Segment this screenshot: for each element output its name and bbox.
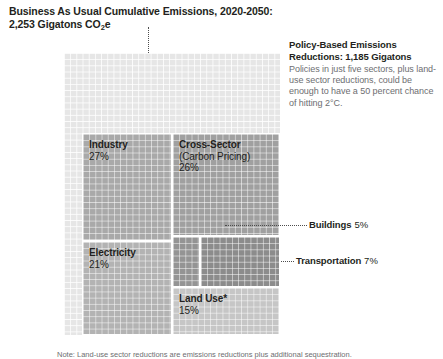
treemap-cell-industry[interactable]: Industry 27% bbox=[82, 133, 172, 241]
footnote: Note: Land-use sector reductions are emi… bbox=[57, 350, 437, 359]
callout-name-transportation: Transportation bbox=[296, 255, 361, 266]
title-total-suffix: e bbox=[105, 18, 111, 30]
treemap-cell-electricity[interactable]: Electricity 21% bbox=[82, 241, 172, 335]
treemap-cell-cross-sector[interactable]: Cross-Sector (Carbon Pricing) 26% bbox=[172, 133, 280, 236]
cell-name-industry: Industry bbox=[89, 139, 171, 151]
cell-name-land-use: Land Use* bbox=[179, 293, 279, 305]
cell-pct-industry: 27% bbox=[89, 151, 171, 163]
treemap-cell-land-use[interactable]: Land Use* 15% bbox=[172, 287, 280, 335]
callout-buildings[interactable]: Buildings5% bbox=[309, 219, 368, 230]
treemap-cell-label: Cross-Sector (Carbon Pricing) 26% bbox=[173, 134, 279, 174]
callout-leader-buildings bbox=[225, 225, 307, 226]
treemap-cell-label: Industry 27% bbox=[83, 134, 171, 162]
cell-grid-texture bbox=[201, 237, 279, 286]
policy-heading: Policy-Based Emissions Reductions: 1,185… bbox=[289, 39, 437, 62]
treemap-cell-buildings[interactable] bbox=[172, 236, 200, 287]
policy-body-text: Policies in just five sectors, plus land… bbox=[289, 64, 437, 109]
cell-pct-cross-sector: 26% bbox=[179, 162, 279, 174]
cell-pct-land-use: 15% bbox=[179, 305, 279, 317]
treemap-cell-label: Electricity 21% bbox=[83, 242, 171, 270]
treemap-chart: Industry 27% Cross-Sector (Carbon Pricin… bbox=[64, 53, 280, 335]
cell-pct-electricity: 21% bbox=[89, 259, 171, 271]
page-title: Business As Usual Cumulative Emissions, … bbox=[9, 5, 299, 34]
title-total-prefix: 2,253 Gigatons CO bbox=[9, 18, 101, 30]
callout-pct-buildings: 5% bbox=[354, 219, 368, 230]
callout-name-buildings: Buildings bbox=[309, 219, 351, 230]
treemap-cell-transportation[interactable] bbox=[200, 236, 280, 287]
title-leader-line bbox=[148, 27, 150, 53]
title-line-1: Business As Usual Cumulative Emissions, … bbox=[9, 5, 299, 18]
callout-transportation[interactable]: Transportation7% bbox=[296, 255, 378, 266]
cell-name-electricity: Electricity bbox=[89, 247, 171, 259]
callout-pct-transportation: 7% bbox=[364, 255, 378, 266]
title-line-2: 2,253 Gigatons CO2e bbox=[9, 18, 299, 34]
cell-grid-texture bbox=[173, 237, 199, 286]
treemap-cell-label: Land Use* 15% bbox=[173, 288, 279, 316]
cell-name-cross-sector: Cross-Sector bbox=[179, 139, 279, 151]
cell-subtitle-cross-sector: (Carbon Pricing) bbox=[179, 151, 279, 163]
callout-leader-transportation bbox=[281, 261, 294, 262]
policy-annotation: Policy-Based Emissions Reductions: 1,185… bbox=[289, 39, 437, 109]
